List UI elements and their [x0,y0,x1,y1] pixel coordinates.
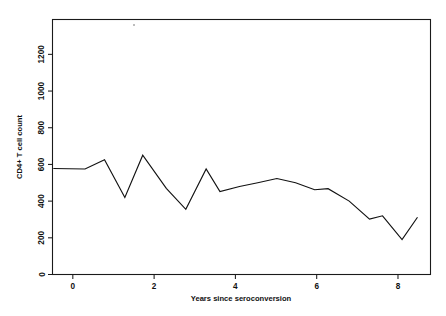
x-axis-title: Years since seroconversion [191,294,292,303]
y-tick-label: 600 [38,157,47,171]
series-line-cd4 [53,155,417,239]
x-tick-label: 8 [396,282,401,291]
x-tick-label: 0 [71,282,76,291]
plot-frame [53,20,431,275]
y-tick-label: 400 [38,194,47,208]
y-tick-label: 800 [38,120,47,134]
x-tick-label: 2 [152,282,157,291]
y-axis-title: CD4+ T cell count [15,115,24,179]
cd4-line-chart: 020040060080010001200 02468 Years since … [0,0,446,316]
x-tick-label: 4 [233,282,238,291]
x-axis-ticks: 02468 [71,275,401,291]
x-tick-label: 6 [314,282,319,291]
y-axis-ticks: 020040060080010001200 [38,45,53,277]
chart-container: 020040060080010001200 02468 Years since … [0,0,446,316]
scan-speck [133,24,135,26]
y-tick-label: 1000 [38,81,47,100]
y-tick-label: 1200 [38,45,47,64]
y-tick-label: 0 [38,272,47,277]
y-tick-label: 200 [38,231,47,245]
